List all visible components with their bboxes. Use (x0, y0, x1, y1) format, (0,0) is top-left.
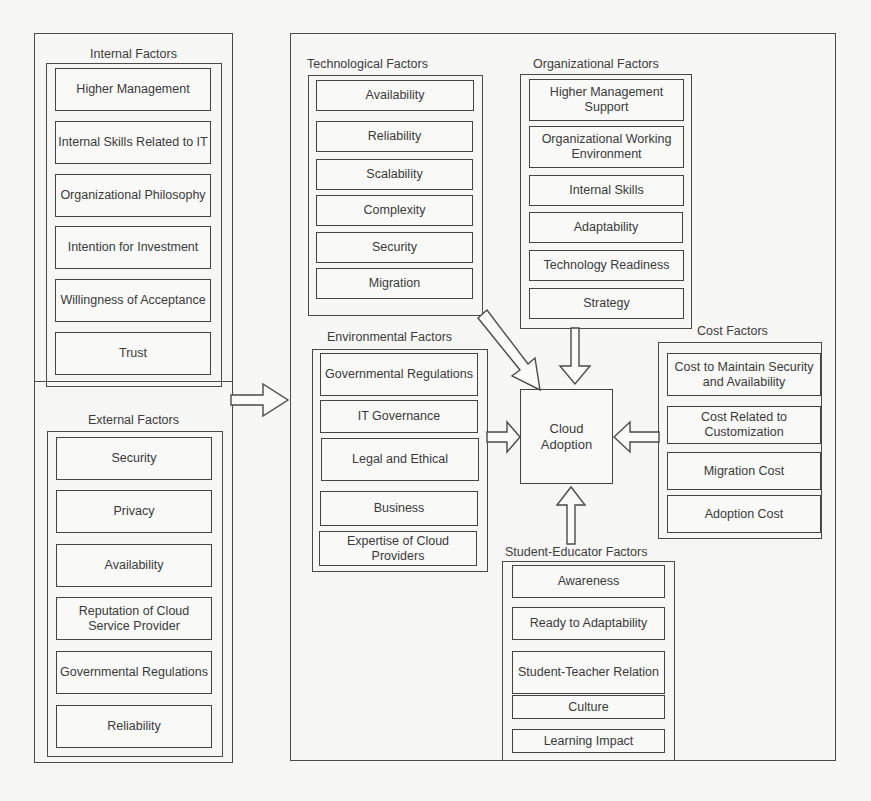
arrow-down-icon (557, 328, 593, 386)
cost-factors-title: Cost Factors (697, 324, 797, 338)
technological-item: Scalability (316, 159, 473, 190)
internal-item: Willingness of Acceptance (55, 279, 211, 322)
internal-item: Higher Management (55, 68, 211, 111)
external-item: Availability (56, 544, 212, 587)
arrow-right-icon (231, 382, 291, 418)
external-item: Privacy (56, 490, 212, 533)
technological-item: Availability (316, 80, 474, 111)
arrow-diagonal-icon (478, 310, 548, 392)
cost-item: Adoption Cost (667, 495, 821, 533)
external-item: Reputation of Cloud Service Provider (56, 597, 212, 640)
external-factors-title: External Factors (34, 413, 233, 427)
environmental-item: IT Governance (320, 400, 478, 433)
environmental-factors-title: Environmental Factors (327, 330, 477, 344)
student-educator-item: Ready to Adaptability (512, 607, 665, 640)
environmental-item: Business (320, 491, 478, 526)
organizational-item: Adaptability (529, 212, 683, 243)
cost-item: Cost Related to Customization (667, 406, 821, 444)
organizational-item: Internal Skills (529, 175, 684, 206)
technological-item: Complexity (316, 195, 473, 226)
cost-item: Migration Cost (667, 452, 821, 490)
technological-factors-title: Technological Factors (307, 57, 447, 71)
external-item: Security (56, 437, 212, 480)
organizational-item: Organizational Working Environment (529, 126, 684, 168)
technological-item: Migration (316, 268, 473, 299)
internal-factors-title: Internal Factors (34, 47, 233, 61)
student-educator-item: Awareness (512, 565, 665, 598)
arrow-right-icon (487, 420, 523, 454)
student-educator-item: Student-Teacher Relation (512, 651, 665, 694)
environmental-item: Governmental Regulations (320, 353, 478, 396)
organizational-factors-title: Organizational Factors (533, 57, 683, 71)
arrow-left-icon (612, 420, 660, 454)
internal-item: Intention for Investment (55, 226, 211, 269)
environmental-item: Expertise of Cloud Providers (319, 531, 477, 566)
organizational-item: Technology Readiness (529, 250, 684, 281)
technological-item: Security (316, 232, 473, 263)
organizational-item: Strategy (529, 288, 684, 319)
student-educator-factors-title: Student-Educator Factors (505, 545, 665, 559)
cloud-adoption-box: Cloud Adoption (520, 389, 613, 484)
external-item: Reliability (56, 705, 212, 748)
internal-item: Organizational Philosophy (55, 174, 211, 217)
technological-item: Reliability (316, 121, 473, 152)
cost-item: Cost to Maintain Security and Availabili… (667, 353, 821, 396)
student-educator-item: Learning Impact (512, 729, 665, 753)
environmental-item: Legal and Ethical (321, 438, 479, 481)
external-item: Governmental Regulations (56, 651, 212, 694)
arrow-up-icon (553, 485, 589, 545)
internal-item: Trust (55, 332, 211, 375)
organizational-item: Higher Management Support (529, 79, 684, 121)
student-educator-item: Culture (512, 695, 665, 719)
internal-item: Internal Skills Related to IT (55, 121, 211, 164)
